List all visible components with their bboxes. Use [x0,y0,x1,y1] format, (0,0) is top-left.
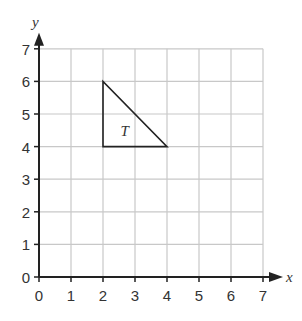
y-tick-label: 5 [22,106,30,123]
x-tick-label: 4 [163,287,171,304]
y-tick-label: 2 [22,204,30,221]
triangle-T-label: T [121,123,131,139]
tick-labels: 0123456701234567 [22,41,268,304]
grid-lines [39,49,263,277]
x-tick-label: 0 [35,287,43,304]
x-tick-label: 5 [195,287,203,304]
y-tick-label: 7 [22,41,30,58]
y-tick-label: 0 [22,269,30,286]
x-tick-label: 1 [67,287,75,304]
x-tick-label: 6 [227,287,235,304]
y-tick-label: 6 [22,73,30,90]
y-tick-label: 4 [22,139,30,156]
y-tick-label: 3 [22,171,30,188]
x-axis-label: x [285,269,293,285]
y-axis-label: y [30,14,39,30]
y-tick-label: 1 [22,236,30,253]
y-axis-arrow-icon [34,33,44,46]
x-tick-label: 7 [259,287,267,304]
coordinate-grid: x y 0123456701234567 T [0,0,302,321]
x-tick-label: 2 [99,287,107,304]
x-tick-label: 3 [131,287,139,304]
x-axis-arrow-icon [269,272,283,282]
